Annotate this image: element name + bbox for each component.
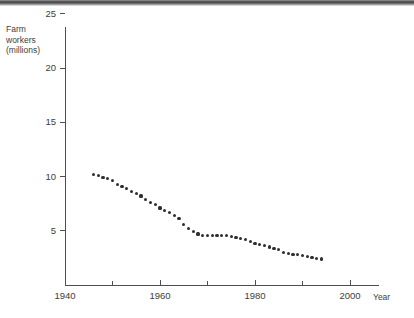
data-point xyxy=(287,252,290,255)
data-point xyxy=(163,209,166,212)
data-point xyxy=(111,179,114,182)
data-point xyxy=(182,223,185,226)
data-point xyxy=(268,245,271,248)
data-point xyxy=(125,187,128,190)
data-point xyxy=(234,236,237,239)
data-point xyxy=(225,234,228,237)
data-point xyxy=(301,254,304,257)
data-point xyxy=(220,234,223,237)
data-point xyxy=(291,253,294,256)
data-point xyxy=(120,185,123,188)
data-point xyxy=(158,206,161,209)
data-point xyxy=(201,234,204,237)
data-point xyxy=(211,234,214,237)
scatter-plot-points xyxy=(0,0,414,318)
data-point xyxy=(139,194,142,197)
data-point xyxy=(177,217,180,220)
data-point xyxy=(296,253,299,256)
data-point xyxy=(173,214,176,217)
data-point xyxy=(244,238,247,241)
data-point xyxy=(187,227,190,230)
data-point xyxy=(196,232,199,235)
data-point xyxy=(306,255,309,258)
data-point xyxy=(116,183,119,186)
data-point xyxy=(315,257,318,260)
data-point xyxy=(253,242,256,245)
data-point xyxy=(92,173,95,176)
data-point xyxy=(320,257,323,260)
data-point xyxy=(106,177,109,180)
data-point xyxy=(230,235,233,238)
data-point xyxy=(215,234,218,237)
data-point xyxy=(272,247,275,250)
chart-figure: Farm workers (millions) Year 510152025 1… xyxy=(0,0,414,318)
data-point xyxy=(282,251,285,254)
data-point xyxy=(239,237,242,240)
data-point xyxy=(135,192,138,195)
data-point xyxy=(130,190,133,193)
data-point xyxy=(168,211,171,214)
data-point xyxy=(192,230,195,233)
data-point xyxy=(154,203,157,206)
data-point xyxy=(258,243,261,246)
data-point xyxy=(249,240,252,243)
data-point xyxy=(206,234,209,237)
data-point xyxy=(101,176,104,179)
data-point xyxy=(310,256,313,259)
data-point xyxy=(263,244,266,247)
data-point xyxy=(149,201,152,204)
data-point xyxy=(144,198,147,201)
data-point xyxy=(277,248,280,251)
data-point xyxy=(97,174,100,177)
